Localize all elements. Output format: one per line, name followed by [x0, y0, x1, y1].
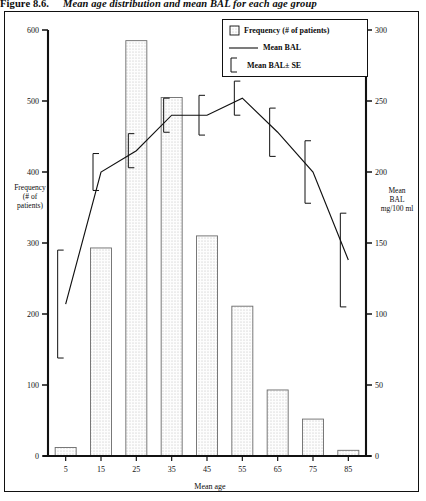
legend-label-mean-bal: Mean BAL: [263, 43, 301, 52]
left-tick-label-200: 200: [27, 310, 39, 319]
hatched-square-swatch-icon: [230, 26, 239, 35]
left-tick-label-100: 100: [27, 381, 39, 390]
left-axis-title: Frequency (# of patients): [4, 183, 56, 210]
error-bracket-75: [305, 141, 311, 203]
legend-item-frequency: Frequency (# of patients): [223, 22, 369, 39]
right-tick-label-100: 100: [375, 310, 387, 319]
left-axis-title-line-1: Frequency: [4, 183, 56, 192]
right-tick-label-150: 150: [375, 239, 387, 248]
left-axis-title-line-2: (# of: [4, 192, 56, 201]
left-tick-label-300: 300: [27, 239, 39, 248]
bar-55: [232, 306, 253, 456]
right-tick-label-200: 200: [375, 168, 387, 177]
right-tick-label-250: 250: [375, 97, 387, 106]
right-tick-label-50: 50: [375, 381, 383, 390]
x-tick-label-65: 65: [274, 465, 282, 474]
legend-item-mean-bal: Mean BAL: [223, 39, 369, 56]
legend-label-mean-bal-se: Mean BAL± SE: [247, 61, 301, 70]
right-axis-title-line-3: mg/100 ml: [372, 204, 422, 213]
x-tick-label-55: 55: [238, 465, 246, 474]
x-axis-title: Mean age: [150, 482, 270, 491]
left-tick-label-400: 400: [27, 168, 39, 177]
x-tick-label-85: 85: [344, 465, 352, 474]
bars-layer: [55, 41, 359, 456]
x-tick-label-15: 15: [97, 465, 105, 474]
left-axis-title-line-3: patients): [4, 201, 56, 210]
left-tick-label-500: 500: [27, 97, 39, 106]
right-axis-title-line-1: Mean: [372, 186, 422, 195]
x-tick-label-75: 75: [309, 465, 317, 474]
bar-25: [126, 41, 147, 456]
legend-item-mean-bal-se: Mean BAL± SE: [223, 56, 369, 73]
error-bracket-85: [340, 213, 346, 307]
legend-label-frequency: Frequency (# of patients): [244, 26, 329, 35]
right-tick-label-0: 0: [375, 452, 379, 461]
left-tick-label-0: 0: [35, 452, 39, 461]
bar-65: [267, 390, 288, 456]
bar-5: [55, 447, 76, 456]
error-bracket-icon: [231, 58, 237, 72]
error-bracket-55: [234, 81, 240, 115]
error-bracket-5: [58, 250, 64, 358]
x-tick-label-45: 45: [203, 465, 211, 474]
right-axis-title: Mean BAL mg/100 ml: [372, 186, 422, 213]
x-tick-label-25: 25: [132, 465, 140, 474]
error-bracket-65: [270, 108, 276, 156]
x-tick-label-35: 35: [168, 465, 176, 474]
left-tick-label-600: 600: [27, 26, 39, 35]
x-tick-label-5: 5: [64, 465, 68, 474]
right-tick-label-300: 300: [375, 26, 387, 35]
bar-35: [161, 97, 182, 456]
bar-45: [197, 236, 218, 456]
right-axis-title-line-2: BAL: [372, 195, 422, 204]
bar-75: [303, 419, 324, 456]
bar-15: [91, 248, 112, 456]
chart-legend: Frequency (# of patients) Mean BAL Mean …: [222, 19, 368, 77]
